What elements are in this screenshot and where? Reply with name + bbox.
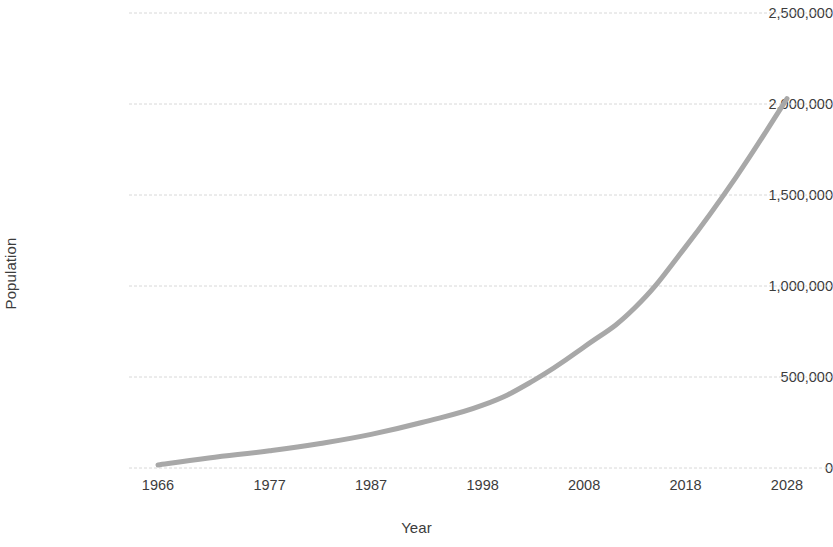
x-axis-title: Year — [0, 519, 833, 536]
x-axis-tick-label: 1998 — [467, 477, 499, 493]
x-axis-tick-label: 1987 — [355, 477, 387, 493]
x-axis-tick-label: 2008 — [568, 477, 600, 493]
gridlines — [129, 13, 833, 468]
population-line-chart: Population Year 0500,0001,000,0001,500,0… — [0, 0, 833, 547]
y-axis-tick-label: 500,000 — [717, 369, 833, 385]
y-axis-tick-label: 2,000,000 — [717, 96, 833, 112]
y-axis-tick-label: 1,000,000 — [717, 278, 833, 294]
x-axis-tick-label: 2018 — [669, 477, 701, 493]
y-axis-tick-label: 2,500,000 — [717, 5, 833, 21]
x-axis-tick-label: 2028 — [771, 477, 803, 493]
plot-svg — [0, 0, 833, 547]
x-axis-tick-label: 1966 — [142, 477, 174, 493]
y-axis-tick-label: 1,500,000 — [717, 187, 833, 203]
y-axis-title-text: Population — [3, 238, 20, 310]
y-axis-title: Population — [0, 0, 22, 547]
plot-area — [0, 0, 833, 547]
data-series-group — [158, 99, 787, 465]
population-series-line — [158, 99, 787, 465]
y-axis-tick-label: 0 — [717, 460, 833, 476]
x-axis-tick-label: 1977 — [253, 477, 285, 493]
